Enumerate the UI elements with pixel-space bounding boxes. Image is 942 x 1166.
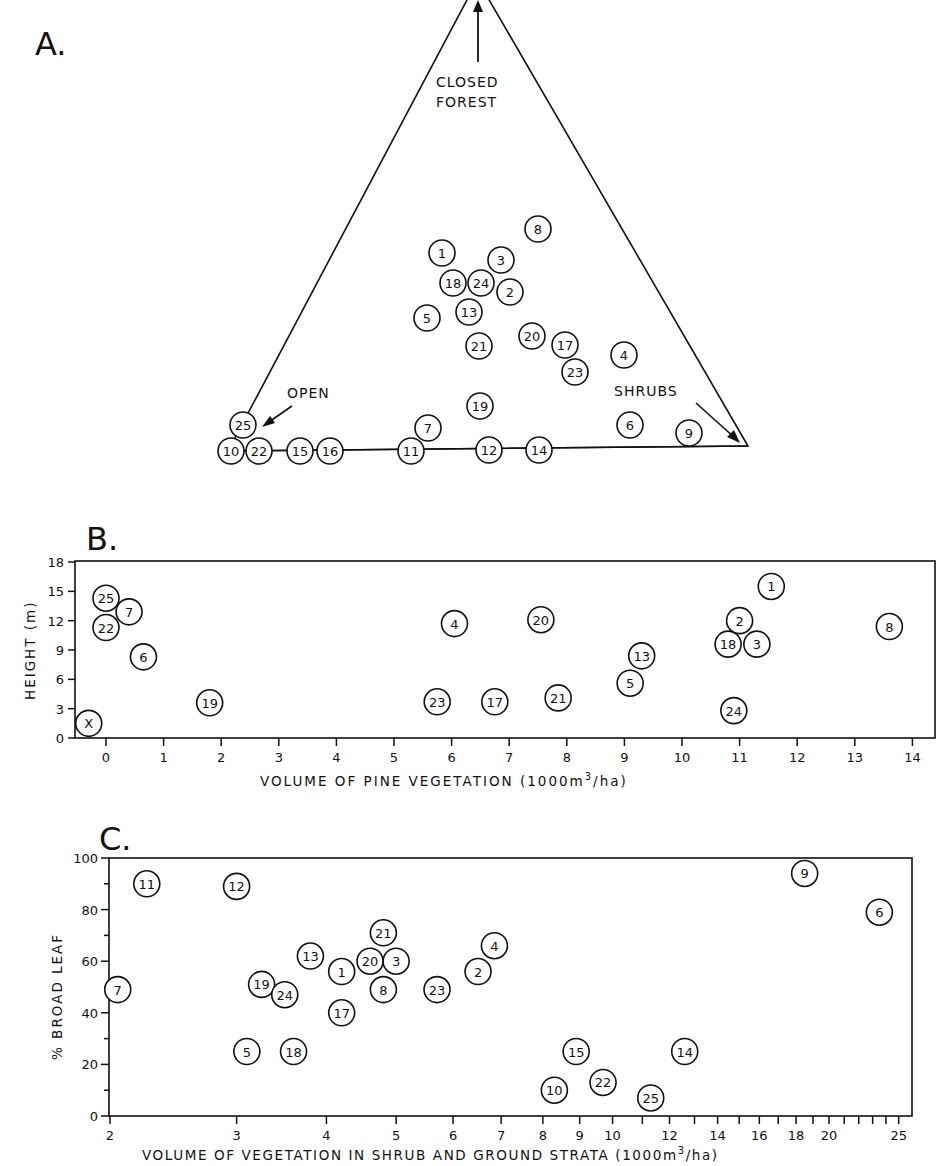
data-point-marker: 23	[424, 689, 450, 715]
forest-label: FOREST	[436, 94, 497, 110]
y-tick-label: 20	[81, 1057, 98, 1072]
data-point-marker: 6	[866, 899, 892, 925]
panel-a-label: A.	[35, 25, 67, 63]
panel-a-points: 8131824251320172142319769251022151611121…	[218, 216, 748, 464]
data-point-marker: 10	[218, 438, 244, 464]
data-point-marker: 11	[398, 438, 424, 464]
x-tick-label: 12	[661, 1128, 678, 1143]
open-arrowhead-icon	[262, 416, 275, 427]
x-tick-label: 10	[604, 1128, 621, 1143]
data-point-label: 22	[251, 444, 268, 459]
data-point-marker: 6	[130, 644, 156, 670]
data-point-label: 7	[114, 983, 122, 998]
panel-c-x-axis-label: VOLUME OF VEGETATION IN SHRUB AND GROUND…	[142, 1145, 719, 1163]
data-point-marker: 10	[541, 1077, 567, 1103]
data-point-label: 9	[685, 426, 693, 441]
y-tick-label: 15	[47, 584, 64, 599]
data-point-marker: 5	[414, 305, 440, 331]
data-point-label: 4	[450, 617, 458, 632]
data-point-label: 18	[285, 1045, 302, 1060]
data-point-label: 18	[445, 276, 462, 291]
panel-b-y-axis-label: HEIGHT (m)	[22, 601, 38, 701]
data-point-label: 25	[98, 591, 115, 606]
data-point-label: 10	[223, 444, 240, 459]
data-point-marker: 22	[246, 438, 272, 464]
data-point-label: 20	[362, 954, 379, 969]
data-point-label: 17	[487, 695, 504, 710]
panel-b-x-axis-label: VOLUME OF PINE VEGETATION (1000m3/ha)	[260, 771, 628, 789]
y-tick-label: 6	[56, 672, 64, 687]
panel-c-y-axis-label: % BROAD LEAF	[49, 933, 65, 1060]
data-point-label: 18	[720, 637, 737, 652]
x-tick-label: 16	[751, 1128, 768, 1143]
x-tick-label: 13	[847, 750, 864, 765]
data-point-label: 19	[201, 696, 218, 711]
y-tick-label: 18	[47, 555, 64, 570]
x-tick-label: 7	[497, 1128, 505, 1143]
data-point-label: 12	[228, 879, 245, 894]
data-point-label: 14	[531, 443, 548, 458]
data-point-label: 1	[767, 579, 775, 594]
data-point-marker: 1	[329, 959, 355, 985]
data-point-marker: 12	[224, 873, 250, 899]
data-point-marker: 18	[281, 1039, 307, 1065]
data-point-label: X	[84, 716, 93, 731]
data-point-label: 8	[885, 620, 893, 635]
data-point-marker: 25	[93, 585, 119, 611]
data-point-marker: 20	[528, 607, 554, 633]
closed-label: CLOSED	[436, 74, 499, 90]
panel-b-label: B.	[86, 520, 118, 558]
data-point-marker: 3	[383, 948, 409, 974]
data-point-label: 21	[550, 691, 567, 706]
data-point-label: 3	[753, 637, 761, 652]
y-tick-label: 40	[81, 1006, 98, 1021]
data-point-marker: 6	[617, 412, 643, 438]
data-point-marker: 20	[519, 323, 545, 349]
data-point-marker: 21	[545, 685, 571, 711]
x-tick-label: 11	[731, 750, 748, 765]
x-tick-label: 0	[102, 750, 110, 765]
x-tick-label: 5	[392, 1128, 400, 1143]
figure: A. CLOSED FOREST OPEN SHRUBS 81318242513…	[0, 0, 942, 1166]
data-point-label: 22	[98, 621, 115, 636]
x-tick-label: 9	[576, 1128, 584, 1143]
data-point-label: 17	[557, 338, 574, 353]
data-point-marker: 3	[488, 247, 514, 273]
data-point-marker: 9	[676, 420, 702, 446]
data-point-marker: 3	[744, 631, 770, 657]
data-point-marker: 8	[370, 977, 396, 1003]
data-point-marker: 4	[441, 611, 467, 637]
data-point-label: 4	[490, 939, 498, 954]
data-point-label: 25	[642, 1091, 659, 1106]
x-tick-label: 6	[449, 1128, 457, 1143]
panel-c-scatter: C. 2345678910121416182025020406080100 71…	[49, 820, 912, 1163]
open-label: OPEN	[287, 385, 330, 401]
data-point-marker: 19	[467, 393, 493, 419]
data-point-label: 5	[243, 1045, 251, 1060]
data-point-marker: 7	[116, 599, 142, 625]
data-point-marker: 18	[715, 631, 741, 657]
data-point-marker: 25	[230, 412, 256, 438]
data-point-label: 5	[423, 311, 431, 326]
y-tick-label: 3	[56, 702, 64, 717]
data-point-label: 8	[534, 222, 542, 237]
data-point-label: 9	[801, 866, 809, 881]
data-point-marker: 2	[727, 608, 753, 634]
data-point-label: 19	[472, 399, 489, 414]
data-point-marker: 24	[272, 982, 298, 1008]
y-tick-label: 12	[47, 614, 64, 629]
x-tick-label: 20	[821, 1128, 838, 1143]
data-point-label: 13	[633, 649, 650, 664]
y-tick-label: 100	[73, 851, 98, 866]
data-point-label: 13	[302, 949, 319, 964]
data-point-marker: 2	[465, 959, 491, 985]
data-point-label: 7	[424, 421, 432, 436]
x-tick-label: 2	[106, 1128, 114, 1143]
data-point-marker: 13	[629, 643, 655, 669]
data-point-marker: 5	[617, 670, 643, 696]
data-point-label: 15	[568, 1045, 585, 1060]
y-tick-label: 0	[90, 1109, 98, 1124]
panel-b-points: X2522761942317202113512183248	[76, 573, 903, 736]
data-point-label: 25	[235, 418, 252, 433]
data-point-marker: 24	[468, 270, 494, 296]
